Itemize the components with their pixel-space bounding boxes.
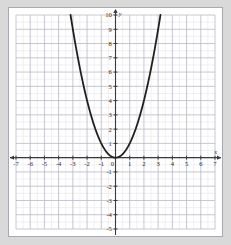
x-axis-name: x xyxy=(213,148,217,155)
x-tick-label: -2 xyxy=(84,160,90,167)
x-tick-label: -4 xyxy=(56,160,62,167)
figure-root: -7-6-5-4-3-2-101234567-5-4-3-2-112345678… xyxy=(0,0,231,245)
x-tick-label: -6 xyxy=(27,160,33,167)
y-tick-label: -1 xyxy=(106,168,112,175)
x-tick-label: -3 xyxy=(70,160,76,167)
x-tick-label: -1 xyxy=(99,160,105,167)
y-tick-label: -3 xyxy=(106,197,112,204)
y-tick-label: -5 xyxy=(106,225,112,232)
plot-card: -7-6-5-4-3-2-101234567-5-4-3-2-112345678… xyxy=(8,7,223,237)
x-tick-label: 2 xyxy=(142,160,145,167)
x-tick-label: -5 xyxy=(42,160,48,167)
y-axis-name: y xyxy=(118,10,122,17)
y-tick-label: 1 xyxy=(109,140,112,147)
cartesian-graph: -7-6-5-4-3-2-101234567-5-4-3-2-112345678… xyxy=(8,7,223,237)
y-tick-label: -2 xyxy=(106,183,112,190)
y-tick-label: -4 xyxy=(106,211,112,218)
x-tick-label: 1 xyxy=(128,160,131,167)
x-tick-label: -7 xyxy=(13,160,19,167)
y-tick-label: 2 xyxy=(109,126,112,133)
y-tick-label: 10 xyxy=(105,11,112,18)
